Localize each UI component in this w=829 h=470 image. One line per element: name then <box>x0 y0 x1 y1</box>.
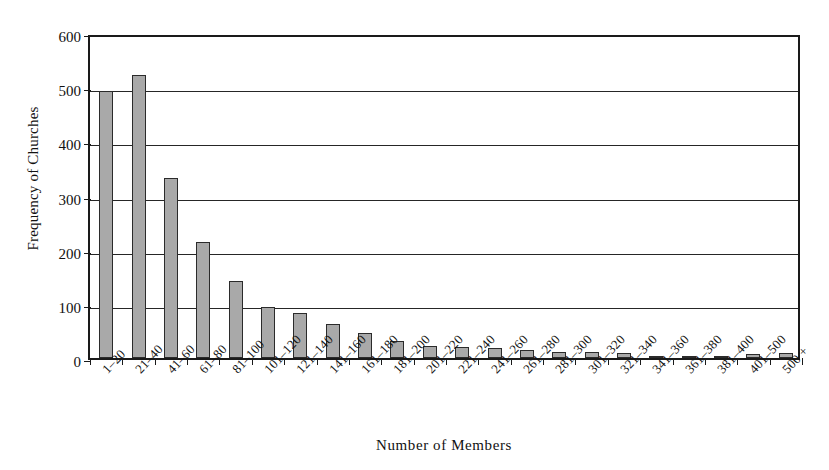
y-tick-label: 300 <box>25 191 90 208</box>
bar <box>132 75 146 358</box>
bar <box>164 178 178 358</box>
y-tick-mark <box>84 144 91 145</box>
histogram-figure: Frequency of Churches 010020030040050060… <box>0 0 829 470</box>
x-axis-title: Number of Members <box>88 437 800 454</box>
y-tick-label: 400 <box>25 137 90 154</box>
y-tick-label: 600 <box>25 29 90 46</box>
bar <box>229 281 243 358</box>
y-tick-label: 500 <box>25 83 90 100</box>
y-tick-mark <box>84 199 91 200</box>
x-tick-mark <box>90 358 91 365</box>
bar <box>99 91 113 358</box>
y-tick-label: 200 <box>25 245 90 262</box>
y-tick-mark <box>84 253 91 254</box>
gridline <box>90 145 798 146</box>
gridline <box>90 91 798 92</box>
y-tick-mark <box>84 307 91 308</box>
y-tick-mark <box>84 90 91 91</box>
plot-area: 0100200300400500600 <box>88 35 800 360</box>
y-tick-label: 100 <box>25 299 90 316</box>
bar <box>196 242 210 358</box>
y-tick-label: 0 <box>25 354 90 371</box>
y-tick-mark <box>84 36 91 37</box>
gridline <box>90 200 798 201</box>
